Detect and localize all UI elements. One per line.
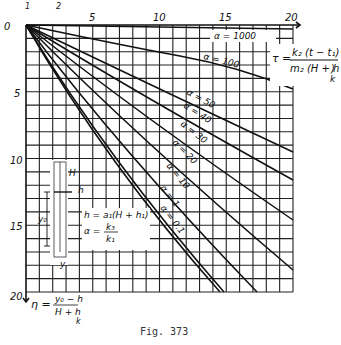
svg-text:η =: η = [31, 298, 51, 311]
h-formula: h = a₁(H + h₁) [84, 210, 148, 220]
x-tick-10: 10 [153, 12, 166, 23]
y-tick-15: 15 [10, 221, 23, 232]
svg-text:H + h: H + h [55, 307, 81, 317]
label-alpha-100: α = 100 [203, 51, 241, 70]
sketch-h: h [78, 185, 84, 195]
x-tick-5: 5 [89, 12, 95, 23]
svg-text:k: k [76, 317, 81, 326]
svg-text:k₁: k₁ [106, 234, 115, 244]
figure-caption: Fig. 373 [140, 326, 188, 337]
sketch-y: y [59, 259, 66, 269]
x-tick-15: 15 [219, 12, 232, 23]
y-tick-20: 20 [10, 291, 23, 302]
chart-figure: 0 5 10 15 20 1 2 5 10 15 20 α = 1000 α =… [0, 0, 341, 345]
eta-formula: η = y₀ − h H + h k [30, 294, 90, 328]
svg-text:k₂ (t − t₁): k₂ (t − t₁) [292, 47, 339, 58]
svg-text:k: k [330, 74, 336, 84]
svg-text:): ) [330, 63, 335, 74]
tau-formula: τ = k₂ (t − t₁) m₂ (H + h ) k [270, 44, 340, 86]
origin-label: 0 [4, 21, 10, 32]
top-extra-2: 2 [56, 2, 61, 11]
label-alpha-1: α = 1 [158, 183, 181, 209]
sketch-H: H [69, 168, 76, 178]
sketch-y0: y₀ [37, 214, 47, 224]
y-tick-10: 10 [10, 155, 23, 166]
column-sketch: H h y₀ y [37, 160, 84, 269]
svg-text:k₃: k₃ [106, 222, 115, 232]
svg-text:y₀ − h: y₀ − h [54, 294, 83, 304]
svg-text:α =: α = [84, 226, 100, 236]
label-alpha-1000: α = 1000 [214, 31, 256, 41]
svg-text:τ =: τ = [272, 52, 291, 65]
x-tick-20: 20 [285, 12, 298, 23]
top-extra-1: 1 [25, 2, 30, 11]
y-tick-labels: 5 10 15 20 [10, 88, 23, 302]
side-formulas: h = a₁(H + h₁) α = k₃ k₁ [82, 208, 150, 250]
y-tick-5: 5 [14, 88, 20, 99]
